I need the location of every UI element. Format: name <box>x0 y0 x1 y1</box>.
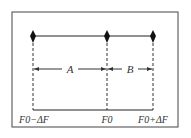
label-f0: F0 <box>100 114 112 125</box>
label-f0-minus: F0−ΔF <box>18 114 50 125</box>
label-b: B <box>127 63 134 75</box>
label-a: A <box>66 63 74 75</box>
label-f0-plus: F0+ΔF <box>137 114 169 125</box>
frequency-diagram: A B F0−ΔF F0 F0+ΔF <box>0 0 191 138</box>
